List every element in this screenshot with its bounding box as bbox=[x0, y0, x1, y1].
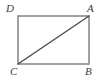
vertex-label-d: D bbox=[6, 3, 14, 14]
vertex-label-a: A bbox=[87, 3, 94, 14]
vertex-label-c: C bbox=[10, 66, 17, 77]
geometry-figure: D A C B bbox=[0, 0, 106, 82]
vertex-label-b: B bbox=[85, 66, 92, 77]
diagonal-line-CA bbox=[18, 16, 89, 64]
